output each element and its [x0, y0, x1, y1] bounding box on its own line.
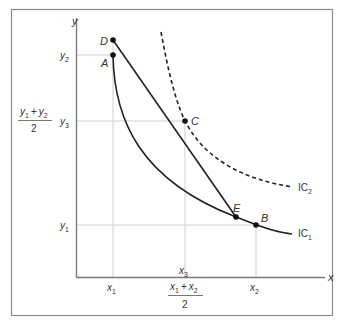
point-a — [110, 52, 116, 58]
indifference-curve-diagram: D A C E B y x y2 y3 y1 y1+y2 2 x1 x3 x2 … — [0, 0, 343, 326]
point-b — [253, 222, 259, 228]
svg-text:2: 2 — [182, 299, 188, 310]
point-e — [233, 214, 239, 220]
label-point-d: D — [100, 35, 108, 47]
label-point-e: E — [233, 202, 241, 214]
label-point-c: C — [191, 115, 199, 127]
label-point-b: B — [261, 212, 268, 224]
label-point-a: A — [100, 57, 108, 69]
point-d — [110, 37, 116, 43]
svg-text:2: 2 — [31, 123, 37, 134]
point-c — [182, 118, 188, 124]
x-axis-label: x — [327, 271, 334, 283]
